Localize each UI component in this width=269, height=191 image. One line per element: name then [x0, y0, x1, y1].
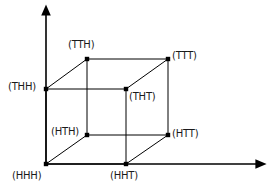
figure-canvas: (HHH)(HHT)(HTH)(HTT)(THH)(THT)(TTH)(TTT): [0, 0, 269, 191]
vertex-dot-hhh: [44, 162, 48, 166]
vertex-label-hhh: (HHH): [12, 170, 41, 181]
vertex-label-hht: (HHT): [110, 170, 138, 181]
vertex-dot-htt: [166, 133, 170, 137]
edge-tht-ttt: [126, 59, 168, 89]
vertex-dot-ttt: [166, 57, 170, 61]
vertex-label-hth: (HTH): [51, 126, 79, 137]
edge-thh-tth: [46, 59, 87, 89]
vertex-dot-hth: [85, 133, 89, 137]
vertex-label-htt: (HTT): [172, 128, 198, 139]
vertex-label-tth: (TTH): [68, 39, 94, 50]
vertex-label-thh: (THH): [8, 81, 36, 92]
vertex-dot-tht: [124, 87, 128, 91]
vertex-label-tht: (THT): [129, 91, 156, 102]
vertex-dot-tth: [85, 57, 89, 61]
edge-hht-htt: [126, 135, 168, 164]
vertex-dot-thh: [44, 87, 48, 91]
vertex-dot-hht: [124, 162, 128, 166]
vertex-label-ttt: (TTT): [172, 50, 197, 61]
edge-hhh-hth: [46, 135, 87, 164]
